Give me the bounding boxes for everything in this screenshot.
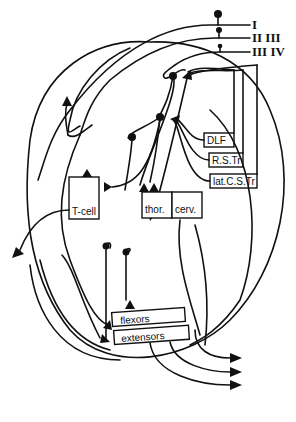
arrow-up-left [62, 96, 72, 106]
cerv-label: cerv. [175, 204, 196, 215]
arrow-out-2 [230, 367, 242, 377]
dlf-label: DLF [207, 135, 226, 146]
interneuron-chain [125, 72, 177, 190]
afferent-label-3: III IV [252, 44, 285, 59]
motor-outputs [150, 220, 242, 390]
arrow-tcell-out [12, 247, 24, 258]
arrow-out-1 [230, 380, 242, 390]
spinal-circuit-diagram: I II III III IV DLF R.S.Tr lat.C.S.Tr T-… [0, 0, 296, 422]
afferent-terminals [214, 10, 222, 52]
flexors-label: flexors [120, 313, 150, 326]
arrow-out-3 [230, 353, 242, 363]
thor-label: thor. [145, 204, 164, 215]
rstr-label: R.S.Tr [212, 155, 241, 166]
tcell-label: T-cell [72, 206, 96, 217]
latcstr-label: lat.C.S.Tr [213, 176, 256, 187]
afferent-label-2: II III [252, 30, 281, 45]
